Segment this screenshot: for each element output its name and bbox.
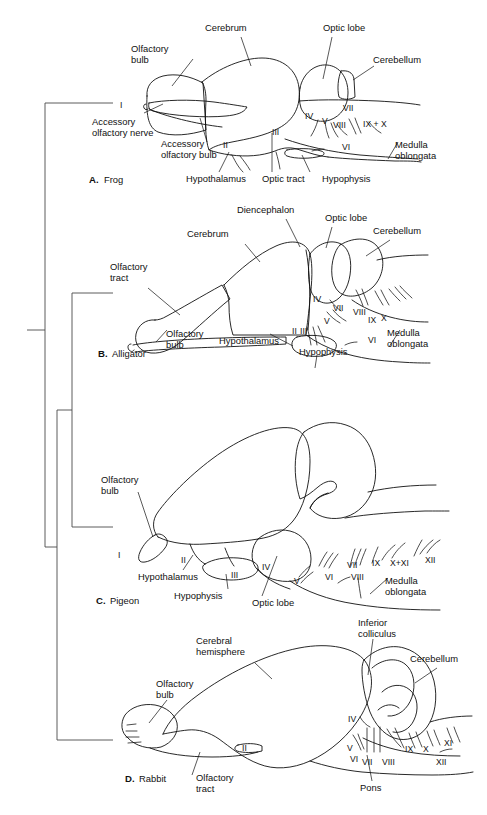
pigeon-nerve-II: II (181, 555, 186, 565)
frog-label-acc-olf-bulb-line1: Accessory (161, 138, 205, 149)
alligator-label-diencephalon: Diencephalon (237, 204, 294, 215)
rabbit-label-olf-bulb-line2: bulb (156, 689, 174, 700)
rabbit-nerve-IV: IV (348, 714, 356, 724)
rabbit-label-cerebral-hem-line2: hemisphere (196, 646, 245, 657)
alligator-label-olf-bulb-line2: bulb (166, 339, 184, 350)
frog-nerve-IX-X: IX + X (363, 119, 387, 129)
frog-label-medulla-line1: Medulla (395, 139, 429, 150)
alligator-label-optic-lobe: Optic lobe (325, 212, 367, 223)
pigeon-nerve-IX: IX (372, 558, 380, 568)
panel-species-frog: Frog (104, 174, 123, 185)
alligator-nerve-II: II (292, 326, 297, 336)
frog-label-hypothalamus: Hypothalamus (186, 173, 246, 184)
alligator-label-hypothalamus: Hypothalamus (219, 335, 279, 346)
pigeon-nerve-VII: VII (347, 560, 358, 570)
rabbit-label-olf-tract-line1: Olfactory (196, 772, 234, 783)
alligator-label-olf-bulb-line1: Olfactory (166, 328, 204, 339)
rabbit-label-olf-bulb-line1: Olfactory (156, 678, 194, 689)
frog-nerve-VIII: VIII (333, 120, 346, 130)
panel-letter-a: A. (89, 174, 99, 185)
panel-letter-d: D. (125, 773, 135, 784)
rabbit-label-inf-colliculus-line2: colliculus (358, 628, 396, 639)
alligator-label-cerebrum: Cerebrum (187, 228, 229, 239)
frog-label-olfactory-bulb-line2: bulb (131, 54, 149, 65)
frog-label-acc-olf-nerve-line2: olfactory nerve (92, 127, 154, 138)
panel-species-pigeon: Pigeon (110, 595, 139, 606)
rabbit-nerve-VI: VI (350, 754, 358, 764)
alligator-label-medulla-line1: Medulla (387, 327, 421, 338)
frog-label-olfactory-bulb-line1: Olfactory (131, 43, 169, 54)
alligator-label-cerebellum: Cerebellum (373, 225, 421, 236)
alligator-nerve-V: V (324, 316, 330, 326)
pigeon-label-olf-bulb-line2: bulb (101, 485, 119, 496)
page-background (0, 0, 487, 815)
pigeon-nerve-IV: IV (262, 562, 270, 572)
frog-nerve-IV: IV (305, 111, 313, 121)
panel-species-alligator: Alligator (112, 348, 146, 359)
rabbit-nerve-II: II (242, 743, 247, 753)
pigeon-nerve-III: III (231, 570, 238, 580)
frog-label-cerebellum: Cerebellum (373, 54, 421, 65)
rabbit-label-cerebral-hem-line1: Cerebral (196, 635, 232, 646)
frog-nerve-VII: VII (343, 103, 354, 113)
frog-label-optic-tract: Optic tract (262, 173, 305, 184)
frog-label-cerebrum: Cerebrum (205, 22, 247, 33)
rabbit-nerve-XII: XII (436, 757, 447, 767)
frog-nerve-V: V (322, 116, 328, 126)
alligator-nerve-X: X (381, 313, 387, 323)
alligator-nerve-VII: VII (333, 303, 344, 313)
alligator-nerve-IV: IV (313, 294, 321, 304)
alligator-label-medulla-line2: oblongata (387, 338, 429, 349)
frog-label-acc-olf-bulb-line2: olfactory bulb (161, 149, 217, 160)
rabbit-nerve-V: V (347, 743, 353, 753)
frog-label-hypophysis: Hypophysis (322, 173, 371, 184)
pigeon-label-olf-bulb-line1: Olfactory (101, 474, 139, 485)
frog-label-acc-olf-nerve-line1: Accessory (92, 116, 136, 127)
pigeon-label-hypophysis: Hypophysis (174, 590, 223, 601)
alligator-nerve-IX: IX (368, 315, 376, 325)
frog-nerve-VI: VI (342, 142, 350, 152)
panel-letter-c: C. (96, 595, 106, 606)
frog-nerve-I: I (120, 100, 122, 110)
pigeon-nerve-V: V (294, 576, 300, 586)
pigeon-label-optic-lobe: Optic lobe (252, 597, 294, 608)
alligator-nerve-VIII: VIII (353, 307, 366, 317)
rabbit-label-cerebellum: Cerebellum (410, 653, 458, 664)
frog-label-medulla-line2: oblongata (395, 150, 437, 161)
pigeon-label-hypothalamus: Hypothalamus (138, 571, 198, 582)
pigeon-nerve-X-XI: X+XI (390, 558, 409, 568)
pigeon-label-medulla-line1: Medulla (385, 575, 419, 586)
alligator-nerve-VI: VI (368, 335, 376, 345)
alligator-nerve-III: III (300, 326, 307, 336)
alligator-label-olf-tract-line1: Olfactory (110, 261, 148, 272)
rabbit-nerve-VII: VII (362, 757, 373, 767)
rabbit-nerve-VIII: VIII (382, 757, 395, 767)
pigeon-nerve-XII: XII (425, 555, 436, 565)
rabbit-label-olf-tract-line2: tract (196, 783, 215, 794)
rabbit-label-inf-colliculus-line1: Inferior (358, 617, 387, 628)
pigeon-label-medulla-line2: oblongata (385, 586, 427, 597)
comparative-brain-figure: I II III IV V VI VII VIII IX + X Olfacto… (0, 0, 487, 815)
panel-species-rabbit: Rabbit (139, 773, 166, 784)
frog-nerve-II: II (223, 140, 228, 150)
pigeon-nerve-I: I (118, 550, 120, 560)
rabbit-nerve-XI: XI (444, 738, 452, 748)
pigeon-nerve-VI: VI (325, 572, 333, 582)
alligator-label-olf-tract-line2: tract (110, 272, 129, 283)
pigeon-nerve-VIII: VIII (351, 572, 364, 582)
rabbit-nerve-X: X (423, 744, 429, 754)
frog-label-optic-lobe: Optic lobe (323, 22, 365, 33)
alligator-label-hypophysis: Hypophysis (299, 346, 348, 357)
frog-nerve-III: III (272, 127, 279, 137)
rabbit-nerve-IX: IX (405, 744, 413, 754)
rabbit-label-pons: Pons (360, 782, 382, 793)
figure-canvas: I II III IV V VI VII VIII IX + X Olfacto… (0, 0, 487, 815)
panel-letter-b: B. (98, 348, 108, 359)
